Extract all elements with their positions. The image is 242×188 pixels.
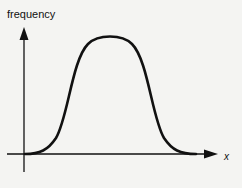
y-axis [20,27,29,172]
frequency-curve [25,37,196,155]
y-axis-arrowhead-icon [20,27,29,40]
bell-curve-diagram [0,0,242,188]
x-axis-arrowhead-icon [204,150,218,159]
y-axis-label: frequency [7,8,55,20]
x-axis-label: x [224,151,229,162]
